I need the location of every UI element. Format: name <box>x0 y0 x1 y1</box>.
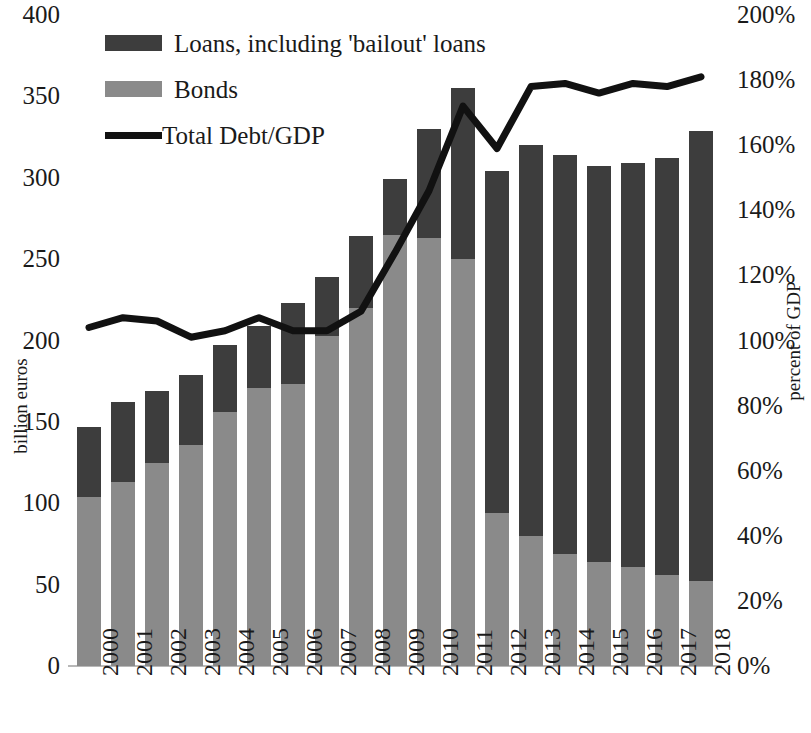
y-tick-label-right: 20% <box>737 588 783 613</box>
x-tick-label: 2012 <box>506 628 530 676</box>
x-tick-label: 2011 <box>472 629 496 676</box>
x-tick-label: 2006 <box>302 628 326 676</box>
x-tick-label: 2005 <box>268 628 292 676</box>
legend-swatch-bonds <box>105 81 162 97</box>
legend-label: Loans, including 'bailout' loans <box>174 31 486 56</box>
legend-item[interactable]: Bonds <box>105 66 475 112</box>
y-tick-label-right: 160% <box>737 132 795 157</box>
legend-swatch-line <box>105 132 162 139</box>
y-tick-label-right: 0% <box>737 653 770 678</box>
x-tick-label: 2004 <box>234 628 258 676</box>
y-tick-label-right: 180% <box>737 67 795 92</box>
x-tick-label: 2018 <box>710 628 734 676</box>
chart-container: billion euros percent of GDP 05010015020… <box>0 0 811 733</box>
x-tick-label: 2003 <box>200 628 224 676</box>
y-tick-label-right: 80% <box>737 393 783 418</box>
y-tick-label-right: 40% <box>737 523 783 548</box>
x-tick-label: 2015 <box>608 628 632 676</box>
x-tick-label: 2009 <box>404 628 428 676</box>
x-tick-label: 2010 <box>438 628 462 676</box>
y-tick-label-left: 50 <box>35 572 60 597</box>
x-tick-label: 2016 <box>642 628 666 676</box>
y-tick-label-right: 100% <box>737 328 795 353</box>
y-tick-label-right: 140% <box>737 197 795 222</box>
y-tick-label-left: 100 <box>23 490 61 515</box>
y-tick-label-right: 120% <box>737 262 795 287</box>
legend-label: Bonds <box>174 77 238 102</box>
y-tick-label-left: 0 <box>48 653 61 678</box>
x-tick-label: 2002 <box>166 628 190 676</box>
x-tick-label: 2014 <box>574 628 598 676</box>
legend-item[interactable]: Loans, including 'bailout' loans <box>105 20 475 66</box>
x-tick-label: 2007 <box>336 628 360 676</box>
y-axis-title-left: billion euros <box>10 346 32 466</box>
y-tick-label-right: 60% <box>737 458 783 483</box>
legend-item[interactable]: Total Debt/GDP <box>105 112 475 158</box>
x-tick-label: 2013 <box>540 628 564 676</box>
x-tick-label: 2000 <box>98 628 122 676</box>
y-tick-label-left: 400 <box>23 2 61 27</box>
x-tick-label: 2001 <box>132 628 156 676</box>
legend-label: Total Debt/GDP <box>162 123 325 148</box>
y-tick-label-right: 200% <box>737 2 795 27</box>
y-tick-label-left: 200 <box>23 328 61 353</box>
x-tick-label: 2017 <box>676 628 700 676</box>
chart-legend: Loans, including 'bailout' loansBondsTot… <box>105 20 475 158</box>
y-tick-label-left: 350 <box>23 83 61 108</box>
y-tick-label-left: 150 <box>23 409 61 434</box>
legend-swatch-loans <box>105 35 162 51</box>
y-tick-label-left: 250 <box>23 246 61 271</box>
y-tick-label-left: 300 <box>23 165 61 190</box>
x-tick-label: 2008 <box>370 628 394 676</box>
